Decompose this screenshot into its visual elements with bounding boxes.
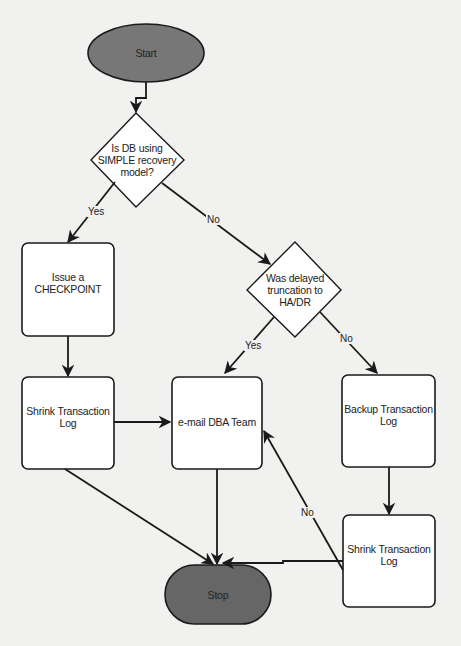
edge-label-hadr-yes: Yes xyxy=(244,340,262,351)
decision-hadr-line1: Was delayed xyxy=(266,272,324,284)
stop-text: Stop xyxy=(208,589,229,601)
edge-shrink-right-no-to-email xyxy=(264,431,343,570)
checkpoint-line1: Issue a xyxy=(52,271,84,283)
backup-log-line2: Log xyxy=(380,415,397,427)
shrink-right-line1: Shrink Transaction xyxy=(347,543,430,555)
decision-simple-line1: Is DB using xyxy=(111,142,163,154)
start-label: Start xyxy=(88,40,204,66)
email-dba-text: e-mail DBA Team xyxy=(178,416,256,428)
edge-label-shrink-right-no: No xyxy=(300,507,315,518)
backup-log-line1: Backup Transaction xyxy=(344,403,433,415)
edge-shrink-to-stop xyxy=(65,469,213,564)
decision-simple-label: Is DB using SIMPLE recovery model? xyxy=(91,140,183,180)
decision-simple-line3: model? xyxy=(120,166,153,178)
email-dba-label: e-mail DBA Team xyxy=(172,377,262,467)
shrink-left-label: Shrink Transaction Log xyxy=(22,377,114,457)
decision-hadr-label: Was delayed truncation to HA/DR xyxy=(249,270,341,310)
shrink-left-line2: Log xyxy=(60,417,77,429)
shrink-right-line2: Log xyxy=(381,555,398,567)
checkpoint-line2: CHECKPOINT xyxy=(35,283,102,295)
checkpoint-label: Issue a CHECKPOINT xyxy=(22,243,114,323)
shrink-left-line1: Shrink Transaction xyxy=(26,405,109,417)
decision-hadr-line3: HA/DR xyxy=(279,296,311,308)
shrink-right-label: Shrink Transaction Log xyxy=(343,515,435,595)
decision-hadr-line2: truncation to xyxy=(267,284,322,296)
stop-label: Stop xyxy=(165,582,271,608)
edge-start-to-decision xyxy=(136,82,146,112)
backup-log-label: Backup Transaction Log xyxy=(342,375,435,455)
edge-shrink-right-to-stop xyxy=(223,561,343,563)
edge-label-hadr-no: No xyxy=(339,333,354,344)
decision-simple-line2: SIMPLE recovery xyxy=(98,154,177,166)
edge-label-simple-no: No xyxy=(206,214,221,225)
edge-label-simple-yes: Yes xyxy=(87,206,105,217)
start-text: Start xyxy=(135,47,156,59)
